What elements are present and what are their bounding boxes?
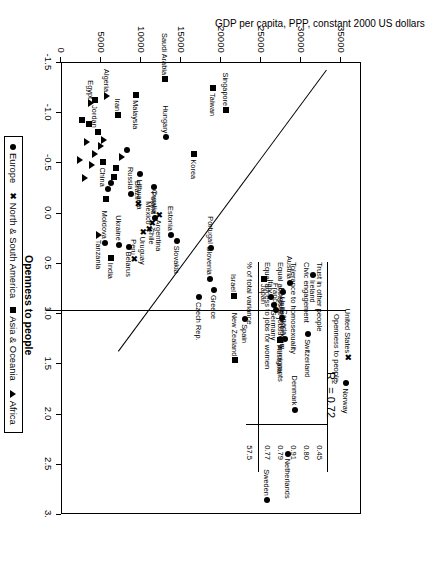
y-tick-mark (140, 57, 141, 62)
legend-item-europe: Europe (8, 144, 19, 183)
data-point-label: Uruguay (138, 237, 147, 265)
data-point (102, 240, 108, 246)
x-tick-mark (56, 263, 61, 264)
data-point (162, 76, 168, 82)
data-point (163, 134, 169, 140)
data-point (207, 276, 213, 282)
inset-table-title: Openness to people (332, 314, 341, 382)
data-point-label: Ukraine (114, 215, 123, 241)
x-tick-mark (56, 414, 61, 415)
x-tick-label: 2.5 (43, 450, 54, 478)
data-point-label: Norway (341, 388, 350, 413)
data-point (137, 171, 143, 177)
x-tick-mark (56, 162, 61, 163)
data-point-label: Algeria (102, 69, 111, 92)
data-point (126, 244, 132, 250)
x-tick-label: 2.0 (43, 400, 54, 428)
x-tick-label: 3. (43, 500, 54, 528)
inset-row-value: 0.79 (276, 430, 285, 460)
data-point (96, 231, 102, 239)
data-point (89, 161, 95, 169)
data-point (174, 238, 180, 244)
x-tick-label: -1.5 (43, 48, 54, 76)
data-point-label: Slovakia (172, 246, 181, 274)
legend-label-africa: Africa (8, 401, 19, 425)
data-point-label: Korea (189, 159, 198, 179)
data-point (103, 196, 109, 202)
legend-item-africa: Africa (8, 390, 19, 425)
data-point-label: Hungary (161, 105, 170, 133)
inset-row-label: Civic engagement (302, 262, 311, 323)
data-point (115, 112, 121, 118)
data-point (105, 186, 111, 192)
x-tick-label: 1.0 (43, 299, 54, 327)
data-point (223, 107, 229, 113)
data-point-label: Taiwan (208, 93, 217, 116)
x-tick-mark (56, 213, 61, 214)
data-point (128, 191, 134, 197)
inset-footer-value: 57.5 (245, 430, 254, 460)
y-tick-mark (180, 57, 181, 62)
data-point (133, 92, 139, 98)
data-point (119, 153, 125, 161)
data-point-label: China (98, 167, 107, 186)
inset-row-value: 0.45 (315, 430, 324, 460)
data-point (211, 287, 217, 293)
data-point (104, 92, 110, 100)
x-tick-label: -1.0 (43, 98, 54, 126)
data-point (210, 85, 216, 91)
circle-marker-icon (11, 144, 17, 150)
y-tick-label: 5000 (96, 0, 107, 53)
inset-row-label: Tolerance to homosexuality (289, 262, 298, 354)
data-point (196, 294, 202, 300)
y-tick-mark (260, 57, 261, 62)
x-tick-mark (56, 363, 61, 364)
data-point (98, 142, 104, 150)
data-point: ✖ (345, 354, 351, 362)
data-point-label: Iran (113, 98, 122, 111)
data-point (77, 156, 83, 164)
y-tick-mark (100, 57, 101, 62)
x-tick-mark (56, 313, 61, 314)
x-marker-icon: ✖ (11, 192, 17, 200)
inset-row-value: 0.77 (263, 430, 272, 460)
data-point-label: Lithuania (135, 179, 144, 209)
inset-footer-label: % of total variance (245, 262, 254, 324)
legend-label-americas: North & South America (8, 203, 19, 298)
square-marker-icon (11, 307, 17, 313)
legend-label-asia-oceania: Asia & Oceania (8, 316, 19, 381)
chart-legend: Europe ✖ North & South America Asia & Oc… (4, 136, 23, 433)
inset-row-label: Equal access to jobs for women (263, 262, 272, 369)
legend-item-asia-oceania: Asia & Oceania (8, 307, 19, 381)
x-tick-label: 0.0 (43, 199, 54, 227)
data-point (151, 184, 157, 190)
y-tick-mark (220, 57, 221, 62)
data-point-label: Greece (209, 295, 218, 319)
y-tick-label: 15000 (176, 0, 187, 53)
data-point-label: Poland (149, 192, 158, 215)
data-point-label: Malaysia (131, 100, 140, 129)
inset-rule-bottom (258, 262, 259, 472)
data-point-label: Egypt (86, 80, 95, 99)
inset-row-value: 0.80 (302, 430, 311, 460)
data-point (82, 174, 88, 182)
data-point-label: Singapore (221, 72, 230, 106)
x-tick-label: 1.5 (43, 349, 54, 377)
y-tick-mark (300, 57, 301, 62)
data-point (208, 245, 214, 251)
y-tick-label: 10000 (136, 0, 147, 53)
data-point (116, 242, 122, 248)
x-tick-label: 0.5 (43, 249, 54, 277)
data-point-label: Tanzania (94, 240, 103, 270)
legend-item-americas: ✖ North & South America (8, 192, 19, 298)
data-point (86, 121, 92, 127)
data-point-label: Saudi Arabia (160, 33, 169, 75)
data-point: ✖ (140, 228, 146, 236)
x-tick-mark (56, 464, 61, 465)
inset-row-value: 0.91 (289, 430, 298, 460)
data-point-label: Portugal (206, 216, 215, 244)
data-point-label: India (106, 263, 115, 279)
data-point-label: Belarus (124, 252, 133, 277)
data-point (168, 232, 174, 238)
